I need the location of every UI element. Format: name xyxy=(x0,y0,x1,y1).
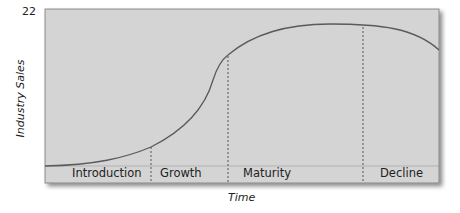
phase-label-introduction: Introduction xyxy=(72,166,142,180)
chart-canvas xyxy=(0,0,460,213)
phase-label-growth: Growth xyxy=(160,166,202,180)
y-axis-label: Industry Sales xyxy=(14,49,27,149)
phase-label-decline: Decline xyxy=(380,166,423,180)
y-tick-label: 22 xyxy=(22,5,36,18)
phase-label-maturity: Maturity xyxy=(243,166,291,180)
plot-panel xyxy=(45,9,439,183)
x-axis-label: Time xyxy=(228,191,255,204)
